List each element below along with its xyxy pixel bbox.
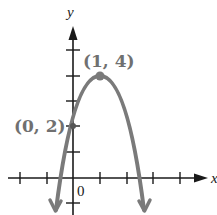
y-axis-label: y [65,4,74,20]
parabola-curve [56,76,144,210]
origin-label: 0 [77,183,85,199]
parabola-graph: (1, 4) (0, 2) y x 0 [0,0,217,215]
x-axis-arrow-icon [194,174,208,183]
vertex-point [96,72,105,81]
y-intercept-label: (0, 2) [14,116,66,136]
vertex-label: (1, 4) [83,51,135,71]
y-intercept-point [70,123,76,129]
y-axis-arrow-icon [69,26,78,40]
x-axis-label: x [210,170,217,186]
